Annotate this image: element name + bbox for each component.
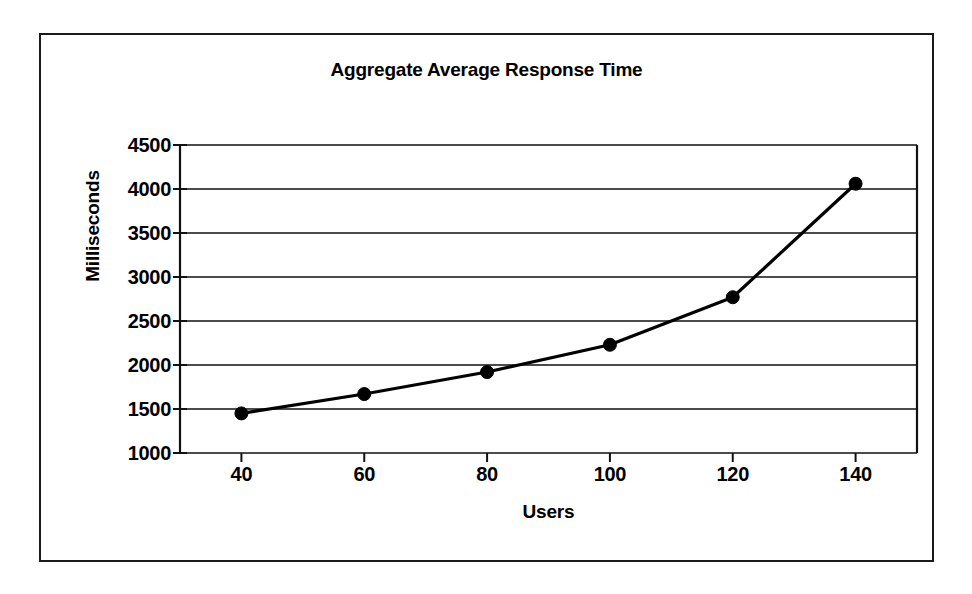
x-axis-tick-label: 60 xyxy=(353,463,375,486)
y-axis-tick-label: 4000 xyxy=(128,178,171,201)
plot-area xyxy=(180,145,917,453)
y-axis-tick-label: 1500 xyxy=(128,398,171,421)
plot-svg xyxy=(180,145,917,453)
y-axis-tick-label: 3500 xyxy=(128,222,171,245)
x-axis-title: Users xyxy=(180,501,917,523)
x-axis-tick-label: 140 xyxy=(839,463,871,486)
x-axis-tick-label: 80 xyxy=(476,463,498,486)
data-point-marker xyxy=(849,177,862,190)
data-point-marker xyxy=(235,407,248,420)
chart-title: Aggregate Average Response Time xyxy=(41,59,932,81)
y-axis-tick-label: 2000 xyxy=(128,354,171,377)
y-axis-tick-label: 2500 xyxy=(128,310,171,333)
x-axis-tick-label: 120 xyxy=(717,463,749,486)
y-axis-tick-label: 4500 xyxy=(128,134,171,157)
data-point-marker xyxy=(358,388,371,401)
x-axis-tick-label: 100 xyxy=(594,463,626,486)
data-point-marker xyxy=(481,366,494,379)
y-axis-tick-labels: 10001500200025003000350040004500 xyxy=(75,145,171,453)
chart-figure: Aggregate Average Response Time Millisec… xyxy=(39,33,934,562)
data-point-marker xyxy=(603,338,616,351)
x-axis-tick-label: 40 xyxy=(231,463,253,486)
y-axis-tick-label: 3000 xyxy=(128,266,171,289)
x-axis-tick-labels: 406080100120140 xyxy=(180,463,917,493)
data-point-marker xyxy=(726,291,739,304)
data-series-line xyxy=(241,184,855,414)
y-axis-tick-label: 1000 xyxy=(128,442,171,465)
